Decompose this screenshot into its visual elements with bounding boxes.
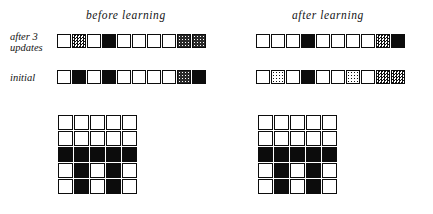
grid-unit-r1-c2 <box>274 115 289 130</box>
grid-unit-r1-c1 <box>58 115 73 130</box>
activation-unit-10 <box>192 70 206 84</box>
activation-row-after-initial <box>256 70 405 84</box>
grid-unit-r3-c5 <box>322 147 337 162</box>
grid-unit-r3-c4 <box>306 147 321 162</box>
activation-unit-7 <box>147 34 161 48</box>
activation-unit-4 <box>102 34 116 48</box>
activation-unit-9 <box>177 70 191 84</box>
grid-unit-r3-c1 <box>258 147 273 162</box>
grid-unit-r2-c3 <box>90 131 105 146</box>
grid-unit-r5-c2 <box>274 179 289 194</box>
grid-unit-r1-c3 <box>90 115 105 130</box>
row-label-initial: initial <box>10 73 35 84</box>
activation-row-before-initial <box>57 70 206 84</box>
grid-unit-r2-c1 <box>58 131 73 146</box>
activation-unit-8 <box>361 70 375 84</box>
grid-unit-r5-c4 <box>106 179 121 194</box>
activation-unit-7 <box>346 34 360 48</box>
grid-unit-r4-c1 <box>58 163 73 178</box>
grid-unit-r2-c1 <box>258 131 273 146</box>
activation-unit-2 <box>271 70 285 84</box>
activation-unit-9 <box>376 70 390 84</box>
activation-unit-3 <box>87 70 101 84</box>
activation-unit-1 <box>57 34 71 48</box>
activation-grid-before-learning <box>58 115 137 194</box>
grid-unit-r5-c2 <box>74 179 89 194</box>
activation-unit-8 <box>162 34 176 48</box>
grid-unit-r2-c5 <box>322 131 337 146</box>
grid-unit-r2-c4 <box>306 131 321 146</box>
column-heading-after-learning: after learning <box>292 9 364 21</box>
grid-unit-r3-c1 <box>58 147 73 162</box>
activation-unit-5 <box>316 70 330 84</box>
activation-unit-5 <box>316 34 330 48</box>
activation-unit-1 <box>256 34 270 48</box>
activation-row-after-updates <box>256 34 405 48</box>
grid-unit-r5-c1 <box>258 179 273 194</box>
grid-unit-r4-c4 <box>106 163 121 178</box>
activation-unit-6 <box>331 70 345 84</box>
activation-unit-10 <box>192 34 206 48</box>
grid-unit-r3-c3 <box>290 147 305 162</box>
activation-unit-3 <box>87 34 101 48</box>
grid-unit-r1-c5 <box>122 115 137 130</box>
activation-unit-2 <box>72 70 86 84</box>
activation-unit-9 <box>177 34 191 48</box>
grid-unit-r4-c1 <box>258 163 273 178</box>
grid-unit-r3-c2 <box>274 147 289 162</box>
activation-unit-4 <box>301 70 315 84</box>
activation-unit-10 <box>391 70 405 84</box>
activation-unit-6 <box>132 34 146 48</box>
grid-unit-r5-c3 <box>290 179 305 194</box>
grid-unit-r3-c4 <box>106 147 121 162</box>
activation-unit-6 <box>331 34 345 48</box>
grid-unit-r1-c5 <box>322 115 337 130</box>
grid-unit-r1-c2 <box>74 115 89 130</box>
grid-unit-r5-c5 <box>322 179 337 194</box>
grid-unit-r1-c3 <box>290 115 305 130</box>
grid-unit-r4-c4 <box>306 163 321 178</box>
activation-unit-10 <box>391 34 405 48</box>
grid-unit-r4-c3 <box>290 163 305 178</box>
grid-unit-r2-c4 <box>106 131 121 146</box>
grid-unit-r2-c5 <box>122 131 137 146</box>
grid-unit-r3-c3 <box>90 147 105 162</box>
grid-unit-r5-c5 <box>122 179 137 194</box>
grid-unit-r5-c3 <box>90 179 105 194</box>
grid-unit-r4-c2 <box>274 163 289 178</box>
grid-unit-r1-c4 <box>106 115 121 130</box>
activation-unit-8 <box>162 70 176 84</box>
activation-unit-3 <box>286 70 300 84</box>
activation-pattern-figure: before learning after learning after 3 u… <box>0 0 433 214</box>
row-label-after-3-updates: after 3 updates <box>10 32 43 53</box>
activation-unit-1 <box>57 70 71 84</box>
activation-unit-8 <box>361 34 375 48</box>
activation-unit-4 <box>102 70 116 84</box>
activation-unit-2 <box>72 34 86 48</box>
grid-unit-r4-c5 <box>322 163 337 178</box>
grid-unit-r2-c2 <box>74 131 89 146</box>
activation-unit-5 <box>117 34 131 48</box>
grid-unit-r1-c4 <box>306 115 321 130</box>
activation-row-before-updates <box>57 34 206 48</box>
grid-unit-r5-c4 <box>306 179 321 194</box>
grid-unit-r1-c1 <box>258 115 273 130</box>
grid-unit-r5-c1 <box>58 179 73 194</box>
activation-unit-7 <box>346 70 360 84</box>
activation-unit-1 <box>256 70 270 84</box>
grid-unit-r4-c3 <box>90 163 105 178</box>
grid-unit-r3-c5 <box>122 147 137 162</box>
activation-unit-9 <box>376 34 390 48</box>
activation-unit-3 <box>286 34 300 48</box>
grid-unit-r4-c2 <box>74 163 89 178</box>
activation-unit-6 <box>132 70 146 84</box>
activation-unit-7 <box>147 70 161 84</box>
column-heading-before-learning: before learning <box>86 9 166 21</box>
activation-unit-4 <box>301 34 315 48</box>
activation-grid-after-learning <box>258 115 337 194</box>
grid-unit-r3-c2 <box>74 147 89 162</box>
activation-unit-2 <box>271 34 285 48</box>
grid-unit-r2-c3 <box>290 131 305 146</box>
activation-unit-5 <box>117 70 131 84</box>
grid-unit-r4-c5 <box>122 163 137 178</box>
